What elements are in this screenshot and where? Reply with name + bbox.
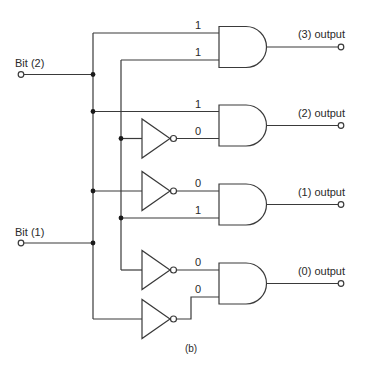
input-label-bit-1: Bit (1) (15, 226, 44, 238)
inverter-triangle-icon (142, 251, 170, 290)
inverter-triangle-icon (142, 172, 170, 211)
input-bit-2: Bit (2) (15, 57, 93, 77)
inverter-bubble-icon (171, 316, 177, 322)
and-gate-icon (219, 263, 267, 304)
output-terminal-icon (338, 123, 344, 129)
output-label-1: (1) output (298, 186, 345, 198)
and-gate-icon (219, 27, 267, 68)
output-label-0: (0) output (298, 265, 345, 277)
output-terminal-icon (338, 281, 344, 287)
and-gate-icon (219, 184, 267, 225)
inverter-bubble-icon (171, 188, 177, 194)
output-terminal-icon (338, 202, 344, 208)
junction-dot (91, 189, 96, 194)
gate-input-value: 0 (195, 177, 201, 189)
junction-dot (91, 241, 96, 246)
inverter-bubble-icon (171, 136, 177, 142)
inverter-4 (142, 297, 219, 339)
inverter-triangle-icon (142, 119, 170, 158)
output-label-3: (3) output (298, 28, 345, 40)
input-terminal-icon (18, 240, 24, 246)
bus-right (119, 60, 219, 270)
inverter-3 (142, 251, 219, 290)
inverter-2 (142, 172, 219, 211)
gate-input-value: 0 (195, 125, 201, 137)
decoder-diagram: Bit (2) Bit (1) (0, 0, 371, 373)
gate-input-value: 1 (195, 204, 201, 216)
junction-dot (91, 72, 96, 77)
and-gate-icon (219, 105, 267, 146)
gate-input-value: 1 (195, 98, 201, 110)
inverter-bubble-icon (171, 267, 177, 273)
gate-input-value: 1 (195, 46, 201, 58)
inverter-1 (142, 119, 219, 158)
output-terminal-icon (338, 44, 344, 50)
gate-input-value: 0 (195, 256, 201, 268)
input-terminal-icon (18, 72, 24, 78)
input-label-bit-2: Bit (2) (15, 57, 44, 69)
gate-input-value: 1 (195, 19, 201, 31)
figure-caption: (b) (185, 343, 197, 354)
junction-dot (91, 109, 96, 114)
inverter-triangle-icon (142, 300, 170, 339)
gate-input-value: 0 (195, 283, 201, 295)
input-bit-1: Bit (1) (15, 226, 93, 246)
junction-dot (119, 136, 124, 141)
junction-dot (119, 216, 124, 221)
output-label-2: (2) output (298, 107, 345, 119)
